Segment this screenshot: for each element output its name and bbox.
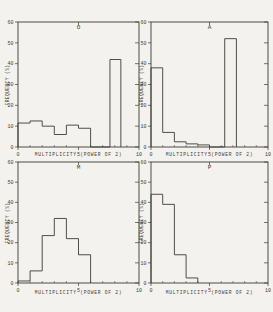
histogram-outline [151,39,236,147]
panel-label-bottom-right: P [208,164,212,171]
plot-frame [151,22,268,147]
histogram-outline [18,60,121,148]
x-tick-label: 0 [149,288,152,294]
y-tick-label: 50 [7,180,13,186]
panel-label-top-left: O [77,24,81,31]
x-axis-title-top-right: MULTIPLICITY (POWER OF 2) [166,152,254,157]
plot-frame [151,162,268,283]
y-tick-label: 10 [140,261,146,267]
y-tick-label: 10 [7,261,13,267]
y-axis-title-bottom-right: FREQUENCY (%) [139,202,144,243]
plot-frame [18,162,139,283]
y-tick-label: 0 [10,145,13,151]
histogram-outline [18,218,91,283]
y-axis-title-top-left: FREQUENCY (%) [5,64,10,105]
y-tick-label: 60 [7,160,13,166]
y-tick-label: 0 [10,281,13,287]
y-tick-label: 10 [7,124,13,130]
x-tick-label: 10 [265,152,271,158]
y-tick-label: 50 [7,41,13,47]
x-tick-label: 10 [136,288,142,294]
y-axis-title-bottom-left: FREQUENCY (%) [5,202,10,243]
x-tick-label: 10 [136,152,142,158]
y-tick-label: 60 [7,20,13,26]
y-tick-label: 60 [140,160,146,166]
panel-label-top-right: A [208,24,212,31]
y-tick-label: 10 [140,124,146,130]
scanned-figure-page: 0102030405060051001020304050600510010203… [0,0,273,312]
y-tick-label: 0 [143,281,146,287]
y-axis-title-top-right: FREQUENCY (%) [139,64,144,105]
x-tick-label: 0 [16,152,19,158]
histogram-outline [151,194,198,283]
x-axis-title-bottom-right: MULTIPLICITY (POWER OF 2) [166,290,254,295]
x-axis-title-top-left: MULTIPLICITY (POWER OF 2) [35,152,123,157]
y-tick-label: 0 [143,145,146,151]
x-tick-label: 0 [149,152,152,158]
y-tick-label: 60 [140,20,146,26]
x-axis-title-bottom-left: MULTIPLICITY (POWER OF 2) [35,290,123,295]
panel-label-bottom-left: M [77,164,81,171]
x-tick-label: 10 [265,288,271,294]
y-tick-label: 50 [140,41,146,47]
y-tick-label: 50 [140,180,146,186]
x-tick-label: 0 [16,288,19,294]
